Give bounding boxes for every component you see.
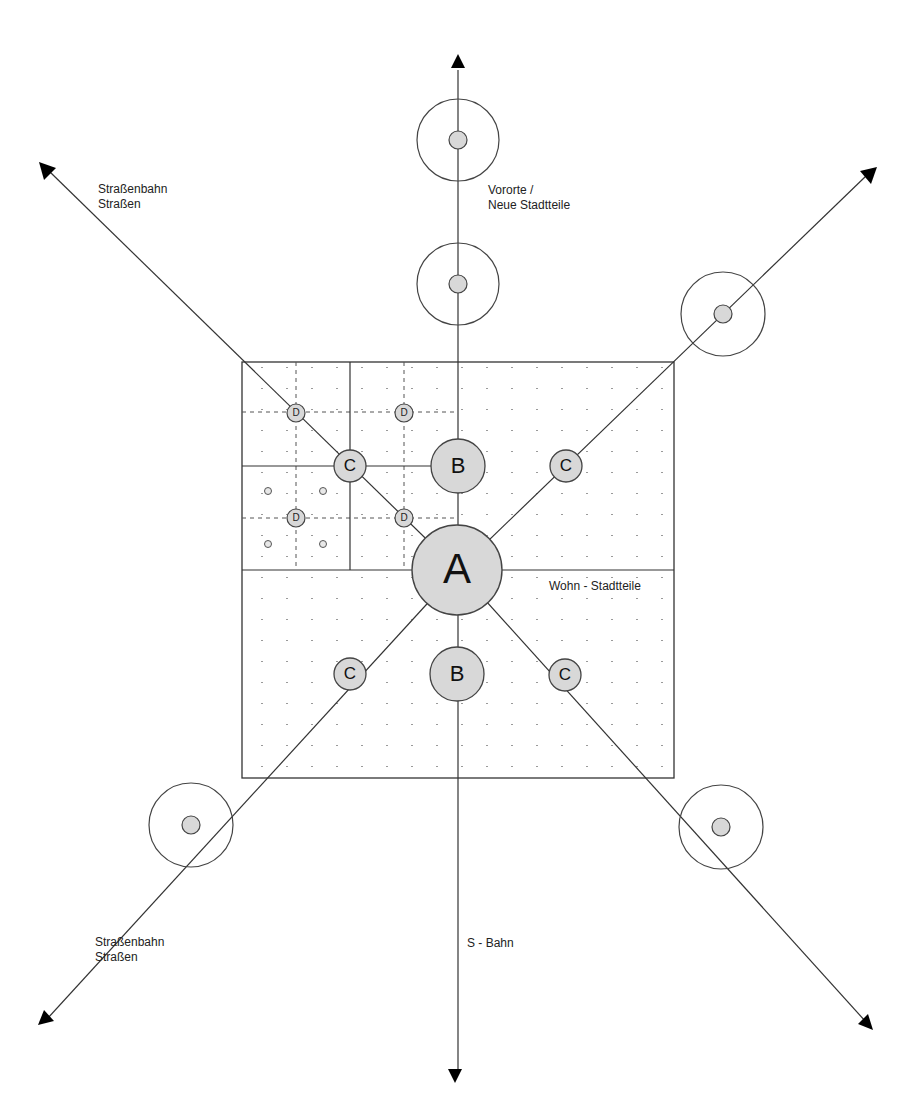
- label-tram-bottom-line2: Straßen: [95, 950, 164, 965]
- label-tram-roads-top: Straßenbahn Straßen: [98, 182, 167, 212]
- arrow-ne-icon: [860, 167, 877, 184]
- label-tram-bottom-line1: Straßenbahn: [95, 935, 164, 950]
- node-c-top-right-label: C: [556, 456, 576, 476]
- node-c-top-left-label: C: [340, 456, 360, 476]
- node-a-label: A: [437, 545, 477, 593]
- arrow-north-icon: [451, 54, 465, 68]
- label-suburbs: Vororte / Neue Stadtteile: [488, 183, 570, 213]
- node-d3-label: D: [290, 511, 302, 525]
- node-c-bottom-left-label: C: [340, 664, 360, 684]
- arrow-nw-icon: [39, 162, 56, 180]
- label-tram-top-line2: Straßen: [98, 197, 167, 212]
- node-d1-label: D: [290, 406, 302, 420]
- label-suburbs-line2: Neue Stadtteile: [488, 198, 570, 213]
- node-d2-label: D: [398, 406, 410, 420]
- node-c-bottom-right-label: C: [555, 665, 575, 685]
- node-d4-label: D: [398, 511, 410, 525]
- node-b-top-label: B: [443, 453, 473, 479]
- arrow-south-icon: [448, 1069, 462, 1083]
- arrow-sw-icon: [38, 1010, 54, 1025]
- label-suburbs-line1: Vororte /: [488, 183, 570, 198]
- label-tram-roads-bottom: Straßenbahn Straßen: [95, 935, 164, 965]
- node-b-bottom-label: B: [442, 661, 472, 687]
- label-tram-top-line1: Straßenbahn: [98, 182, 167, 197]
- label-residential: Wohn - Stadtteile: [549, 579, 641, 594]
- label-sbahn: S - Bahn: [467, 936, 514, 951]
